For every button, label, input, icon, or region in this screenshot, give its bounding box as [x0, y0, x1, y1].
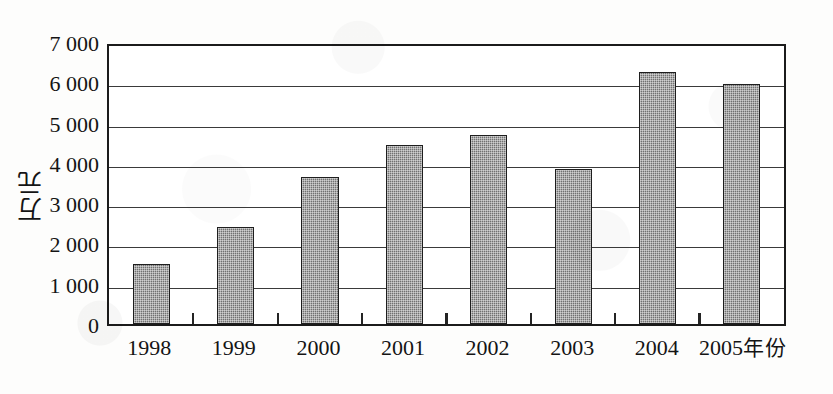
bar-slot	[447, 46, 531, 324]
bar[interactable]	[217, 227, 254, 324]
x-tick-year: 1998	[127, 335, 171, 360]
bar-slot	[278, 46, 362, 324]
y-tick-label: 4 000	[50, 154, 100, 176]
bar[interactable]	[133, 264, 170, 324]
x-tick-year: 2001	[381, 335, 425, 360]
bar-slot	[531, 46, 615, 324]
bar[interactable]	[386, 145, 423, 324]
bar-slot	[615, 46, 699, 324]
bar[interactable]	[470, 135, 507, 324]
y-tick-label: 1 000	[50, 275, 100, 297]
plot-area	[107, 44, 786, 326]
y-tick-label: 5 000	[50, 114, 100, 136]
bar-chart-figure: 万元 01 0002 0003 0004 0005 0006 0007 000 …	[0, 0, 833, 394]
x-tick-year: 2003	[550, 335, 594, 360]
x-tick-year: 2004	[635, 335, 679, 360]
x-tick-year: 2000	[296, 335, 340, 360]
x-axis-unit-label: 年份	[743, 336, 786, 360]
x-tick-label: 2002	[445, 334, 530, 374]
x-tick-label: 1999	[192, 334, 277, 374]
x-tick-label: 2000	[276, 334, 361, 374]
x-axis-tick-labels: 19981999200020012002200320042005年份	[107, 334, 786, 374]
x-tick-year: 2005	[699, 335, 743, 360]
x-tick-year: 2002	[466, 335, 510, 360]
x-tick-label: 2001	[361, 334, 446, 374]
bar-slot	[109, 46, 193, 324]
bar[interactable]	[639, 72, 676, 324]
y-tick-label: 0	[88, 315, 99, 337]
y-tick-label: 7 000	[50, 33, 100, 55]
y-tick-label: 3 000	[50, 194, 100, 216]
x-tick-year: 1999	[212, 335, 256, 360]
bar[interactable]	[555, 169, 592, 324]
x-tick-label: 2005年份	[699, 334, 786, 374]
bar-slot	[700, 46, 784, 324]
x-tick-label: 2003	[530, 334, 615, 374]
y-tick-label: 2 000	[50, 234, 100, 256]
x-tick-label: 2004	[614, 334, 699, 374]
bar[interactable]	[301, 177, 338, 324]
bar-slot	[193, 46, 277, 324]
bar-series	[109, 46, 784, 324]
y-tick-label: 6 000	[50, 73, 100, 95]
x-tick-label: 1998	[107, 334, 192, 374]
y-axis-tick-labels: 01 0002 0003 0004 0005 0006 0007 000	[0, 0, 107, 394]
bar-slot	[362, 46, 446, 324]
bar[interactable]	[723, 84, 760, 324]
